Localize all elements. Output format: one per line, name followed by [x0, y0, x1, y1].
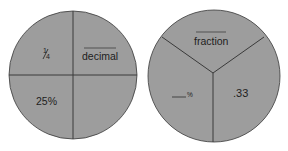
fraction-label-group: fraction [194, 32, 229, 47]
left-circle-quarters: 1 4 decimal 25% [9, 11, 137, 139]
fraction-label: fraction [194, 35, 229, 47]
percent-suffix: % [187, 91, 193, 98]
decimal-value-label: .33 [233, 87, 248, 99]
percent-label: 25% [36, 95, 57, 107]
fraction-denominator: 4 [46, 53, 50, 60]
decimal-label: decimal [82, 50, 118, 62]
decimal-label-group: decimal [82, 48, 118, 62]
right-circle [148, 10, 280, 142]
fraction-diagram: 1 4 decimal 25% fraction % .33 [0, 0, 288, 151]
right-circle-thirds: fraction % .33 [148, 10, 280, 142]
